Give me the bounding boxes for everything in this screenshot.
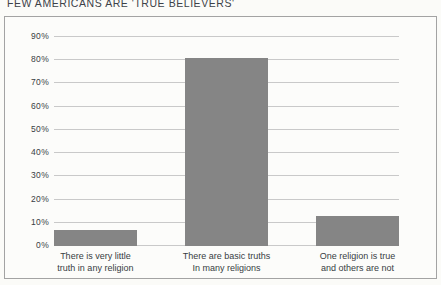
y-tick-label: 30% (5, 171, 49, 180)
y-tick-label: 0% (5, 241, 49, 250)
x-category-label: There is very littletruth in any religio… (20, 251, 170, 274)
y-tick-label: 60% (5, 102, 49, 111)
chart-frame: 0%10%20%30%40%50%60%70%80%90% There is v… (4, 16, 437, 279)
x-category-label: There are basic truthsIn many religions (152, 251, 302, 274)
x-axis-labels: There is very littletruth in any religio… (54, 251, 399, 277)
chart-title: FEW AMERICANS ARE 'TRUE BELIEVERS' (7, 0, 235, 9)
bar (54, 230, 137, 246)
plot-area (54, 37, 399, 246)
y-tick-label: 20% (5, 195, 49, 204)
gridline (54, 36, 399, 37)
y-tick-label: 70% (5, 78, 49, 87)
y-tick-label: 50% (5, 125, 49, 134)
y-tick-label: 40% (5, 148, 49, 157)
bar (316, 216, 399, 246)
y-tick-label: 90% (5, 32, 49, 41)
y-tick-label: 10% (5, 218, 49, 227)
bar (185, 58, 268, 246)
y-tick-label: 80% (5, 55, 49, 64)
y-axis-labels: 0%10%20%30%40%50%60%70%80%90% (5, 37, 49, 246)
x-category-label: One religion is trueand others are not (283, 251, 433, 274)
